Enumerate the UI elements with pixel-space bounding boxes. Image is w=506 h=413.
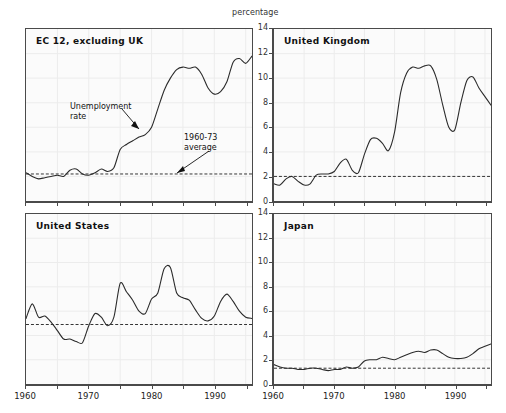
- annotation-unemployment-rate: Unemployment rate: [70, 102, 132, 122]
- y-axis-unit-label: percentage: [232, 8, 279, 17]
- data-line: [26, 56, 252, 179]
- x-axis-line: [25, 202, 253, 203]
- y-tick-label: 8: [252, 99, 268, 107]
- x-tick-label: 1990: [445, 391, 467, 401]
- x-axis-line: [273, 385, 492, 386]
- x-tick-mark: [215, 202, 216, 206]
- y-tick-label: 14: [252, 209, 268, 217]
- y-tick-label: 10: [252, 258, 268, 266]
- x-tick-mark: [57, 202, 58, 206]
- y-tick-label: 8: [252, 283, 268, 291]
- x-tick-label: 1960: [262, 391, 284, 401]
- y-tick-label: 4: [252, 148, 268, 156]
- gridlines: [26, 29, 252, 201]
- x-tick-label: 1970: [77, 391, 99, 401]
- x-axis-bottom-left: 1960197019801990: [25, 385, 253, 399]
- x-tick-mark: [88, 385, 89, 389]
- x-tick-label: 1980: [141, 391, 163, 401]
- x-tick-label: 1960: [14, 391, 36, 401]
- x-tick-label: 1970: [323, 391, 345, 401]
- panel-japan-plot-svg: [274, 214, 491, 384]
- x-tick-mark: [273, 202, 274, 206]
- x-tick-mark: [25, 385, 26, 389]
- panel-title-japan: Japan: [284, 221, 314, 231]
- x-tick-mark: [334, 385, 335, 389]
- panel-united-kingdom: United Kingdom: [273, 28, 492, 202]
- panel-united-states: United States: [25, 213, 253, 385]
- x-tick-mark: [425, 385, 426, 389]
- unemployment-rate-figure: percentage EC 12, excluding UK Unemploym…: [0, 0, 506, 413]
- x-tick-mark: [25, 202, 26, 206]
- data-line: [26, 265, 252, 343]
- y-tick-label: 2: [252, 173, 268, 181]
- x-tick-mark: [247, 385, 248, 389]
- gridlines: [26, 214, 252, 384]
- y-tick-label: 6: [252, 123, 268, 131]
- x-tick-label: 1980: [384, 391, 406, 401]
- y-tick-label: 0: [252, 381, 268, 389]
- x-tick-mark: [273, 385, 274, 389]
- annotation-1960-73-average: 1960-73 average: [184, 133, 217, 153]
- y-tick-label: 14: [252, 24, 268, 32]
- x-tick-mark: [215, 385, 216, 389]
- x-tick-mark: [425, 202, 426, 206]
- x-tick-mark: [456, 202, 457, 206]
- y-tick-label: 2: [252, 356, 268, 364]
- x-tick-mark: [486, 385, 487, 389]
- data-line: [274, 344, 491, 371]
- y-tick-label: 12: [252, 49, 268, 57]
- x-tick-mark: [456, 385, 457, 389]
- y-tick-label: 10: [252, 74, 268, 82]
- x-tick-mark: [57, 385, 58, 389]
- x-tick-mark: [120, 385, 121, 389]
- y-tick-label: 12: [252, 234, 268, 242]
- panel-japan: Japan: [273, 213, 492, 385]
- x-tick-mark: [364, 385, 365, 389]
- x-tick-mark: [364, 202, 365, 206]
- y-tick-label: 0: [252, 198, 268, 206]
- x-tick-mark: [152, 385, 153, 389]
- x-tick-mark: [303, 385, 304, 389]
- y-axis-top: 02468101214: [249, 28, 273, 202]
- panel-title-ec12: EC 12, excluding UK: [36, 36, 143, 46]
- x-tick-mark: [486, 202, 487, 206]
- panel-title-united-states: United States: [36, 221, 109, 231]
- x-tick-mark: [152, 202, 153, 206]
- panel-ec12-plot-svg: [26, 29, 252, 201]
- x-axis-line: [25, 385, 253, 386]
- y-tick-label: 6: [252, 307, 268, 315]
- x-tick-mark: [247, 202, 248, 206]
- x-tick-mark: [395, 202, 396, 206]
- data-line: [274, 65, 491, 185]
- y-axis-bottom: 02468101214: [249, 213, 273, 385]
- x-tick-label: 1990: [204, 391, 226, 401]
- x-tick-mark: [303, 202, 304, 206]
- panel-us-plot-svg: [26, 214, 252, 384]
- x-tick-mark: [120, 202, 121, 206]
- panel-ec12-excluding-uk: EC 12, excluding UK Unemployment rate 19…: [25, 28, 253, 202]
- x-axis-line: [273, 202, 492, 203]
- x-tick-mark: [334, 202, 335, 206]
- panel-uk-plot-svg: [274, 29, 491, 201]
- x-tick-mark: [88, 202, 89, 206]
- x-axis-bottom-right: 1960197019801990: [273, 385, 492, 399]
- x-tick-mark: [395, 385, 396, 389]
- x-tick-mark: [183, 202, 184, 206]
- panel-title-united-kingdom: United Kingdom: [284, 36, 370, 46]
- x-tick-mark: [183, 385, 184, 389]
- y-tick-label: 4: [252, 332, 268, 340]
